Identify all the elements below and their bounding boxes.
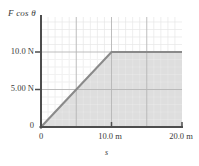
x-tick-label-0: 0 xyxy=(33,131,49,141)
y-tick-label-5: 5.00 N xyxy=(1,83,34,93)
y-tick-label-10: 10.0 N xyxy=(1,46,34,56)
y-axis-label: F cos θ xyxy=(8,8,36,18)
x-axis-label: s xyxy=(105,148,108,157)
y-tick-label-0: 0 xyxy=(18,120,34,130)
x-tick-label-10: 10.0 m xyxy=(93,131,127,141)
force-displacement-chart: F cos θ s 10.0 N 5.00 N 0 0 10.0 m 20.0 … xyxy=(0,0,199,166)
x-tick-label-20: 20.0 m xyxy=(164,131,198,141)
